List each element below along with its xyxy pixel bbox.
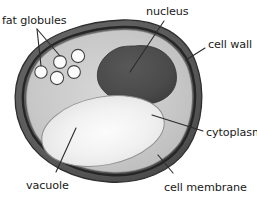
label-vacuole: vacuole [26, 179, 69, 192]
fat-globule [68, 66, 81, 79]
cell-diagram-figure: fat globules nucleus cell wall cytoplasm… [0, 0, 257, 201]
cell-diagram-svg: fat globules nucleus cell wall cytoplasm… [0, 0, 257, 201]
label-nucleus: nucleus [146, 5, 189, 18]
label-cytoplasm: cytoplasm [206, 126, 257, 139]
fat-globule [71, 49, 84, 62]
label-cell-wall: cell wall [208, 38, 252, 51]
fat-globule [54, 56, 67, 69]
label-fat-globules: fat globules [2, 14, 67, 27]
fat-globule [35, 66, 47, 78]
fat-globule [50, 71, 63, 84]
label-cell-membrane: cell membrane [164, 181, 247, 194]
